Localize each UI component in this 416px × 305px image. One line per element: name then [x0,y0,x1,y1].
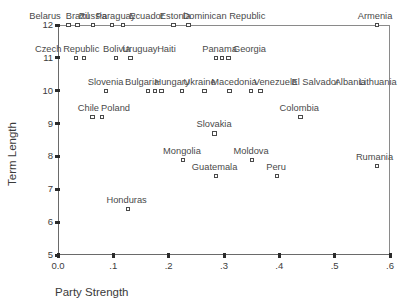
data-point-marker [212,131,216,135]
data-point-marker [220,56,224,60]
data-point-marker [100,115,104,119]
data-point-label: Georgia [233,45,266,55]
data-point-marker [180,89,184,93]
data-point-marker [181,158,185,162]
x-tick-label: .6 [370,261,410,271]
x-tick-label: .3 [204,261,244,271]
data-point-marker [226,56,230,60]
data-point-marker [104,89,108,93]
y-axis-title: Term Length [6,94,18,214]
data-point-marker [128,56,132,60]
data-point-label: Republic [63,45,99,55]
x-tick-label: .4 [259,261,299,271]
data-point-marker [110,23,114,27]
data-point-label: Slovakia [196,120,231,130]
plot-area: BelarusBrazilRussiaParaguayEcuadorEstoni… [58,25,390,255]
data-point-marker [91,23,95,27]
data-point-marker [114,56,118,60]
data-point-label: Colombia [280,104,319,114]
data-point-marker [249,89,253,93]
data-point-label: Moldova [234,147,269,157]
data-point-label: Guatemala [192,163,237,173]
x-axis-title: Party Strength [55,286,129,298]
data-point-marker [90,115,94,119]
data-point-label: Dominican Republic [183,12,266,22]
data-point-marker [159,89,163,93]
data-point-marker [298,115,302,119]
y-tick-label: 6 [0,217,53,227]
data-point-marker [171,23,175,27]
data-point-label: Armenia [358,12,393,22]
data-point-marker [375,164,379,168]
data-point-marker [227,89,231,93]
data-point-label: Honduras [106,196,146,206]
data-point-label: Belarus [29,12,61,22]
data-point-label: Mongolia [163,147,201,157]
data-point-marker [82,56,86,60]
x-tick-label: .1 [93,261,133,271]
x-tick-label: 0.0 [38,261,78,271]
data-point-label: El Salvador [292,78,340,88]
data-point-marker [75,23,79,27]
data-point-marker [146,89,150,93]
data-point-marker [275,174,279,178]
data-point-label: Lithuania [359,78,397,88]
data-point-label: Haiti [157,45,176,55]
data-point-label: Macedonia [211,78,256,88]
data-point-marker [126,207,130,211]
data-point-label: Rumania [356,153,393,163]
x-tick-label: .5 [315,261,355,271]
data-point-label: Poland [101,104,130,114]
data-point-label: Czech [35,45,61,55]
data-point-label: Panama [202,45,237,55]
x-tick-label: .2 [149,261,189,271]
data-point-marker [202,89,206,93]
data-point-marker [214,56,218,60]
data-point-label: Uruguay [122,45,157,55]
data-point-marker [66,23,70,27]
data-point-label: Chile [78,104,99,114]
data-point-label: Ecuador [129,12,164,22]
scatter-chart: 12111098765 0.0.1.2.3.4.5.6 BelarusBrazi… [0,0,416,305]
data-point-marker [258,89,262,93]
data-point-label: Peru [266,163,286,173]
data-point-marker [121,23,125,27]
data-point-marker [153,89,157,93]
data-point-marker [250,158,254,162]
y-tick-label: 5 [0,250,53,260]
data-point-marker [186,23,190,27]
data-point-marker [74,56,78,60]
data-point-marker [214,174,218,178]
data-point-marker [375,23,379,27]
data-point-label: Slovenia [88,78,124,88]
